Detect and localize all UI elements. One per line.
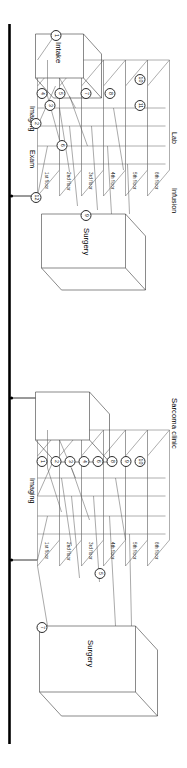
imaging-label-right: Imaging bbox=[28, 478, 35, 504]
step-marker-r2[interactable]: 2 bbox=[50, 456, 61, 467]
diagram-canvas: .s{fill:none;stroke:#6b6b6b;stroke-width… bbox=[0, 0, 187, 768]
step-marker-r8[interactable]: 8 bbox=[106, 456, 117, 467]
floor-label-5th-right: 5th floor bbox=[130, 542, 135, 560]
floor-label-1st-left: 1st floor bbox=[42, 172, 47, 189]
step-marker-6[interactable]: 6 bbox=[56, 140, 67, 151]
step-marker-4[interactable]: 4 bbox=[36, 88, 47, 99]
infusion-label: Infusion bbox=[170, 188, 177, 213]
floor-label-6th-left: 6th floor bbox=[152, 172, 157, 190]
floor-label-6th-right: 6th floor bbox=[152, 542, 157, 560]
floor-label-2nd-left: 2nd floor bbox=[64, 172, 69, 191]
step-marker-7[interactable]: 7 bbox=[80, 88, 91, 99]
intake-label: Intake bbox=[53, 42, 61, 63]
step-marker-12[interactable]: 12 bbox=[30, 192, 41, 203]
exam-label: Exam bbox=[28, 150, 35, 168]
step-marker-r5[interactable]: 5 bbox=[94, 568, 105, 579]
step-marker-9[interactable]: 9 bbox=[80, 210, 91, 221]
step-marker-1[interactable]: 1 bbox=[50, 30, 61, 41]
step-marker-r6[interactable]: 6 bbox=[92, 456, 103, 467]
floor-label-3rd-left: 3rd floor bbox=[86, 172, 91, 190]
step-marker-r3[interactable]: 3 bbox=[64, 456, 75, 467]
surgery-label-left: Surgery bbox=[81, 228, 89, 255]
step-marker-r4[interactable]: 4 bbox=[78, 456, 89, 467]
floor-label-5th-left: 5th floor bbox=[130, 172, 135, 190]
step-marker-11[interactable]: 11 bbox=[134, 100, 145, 111]
surgery-building-right bbox=[39, 626, 157, 716]
floor-label-3rd-right: 3rd floor bbox=[86, 542, 91, 560]
floor-label-2nd-right: 2nd floor bbox=[64, 542, 69, 561]
step-marker-3[interactable]: 3 bbox=[44, 100, 55, 111]
step-marker-r7[interactable]: 7 bbox=[36, 622, 47, 633]
lab-label: Lab bbox=[170, 132, 177, 144]
floor-label-4th-left: 4th floor bbox=[108, 172, 113, 190]
step-marker-r1[interactable]: 1 bbox=[36, 456, 47, 467]
step-marker-r10[interactable]: 10 bbox=[134, 456, 145, 467]
floor-label-4th-right: 4th floor bbox=[108, 542, 113, 560]
step-marker-10[interactable]: 10 bbox=[134, 74, 145, 85]
step-marker-r9[interactable]: 9 bbox=[120, 456, 131, 467]
general-clinic-floorstack bbox=[37, 60, 169, 196]
surgery-building-left bbox=[41, 214, 145, 290]
step-marker-8[interactable]: 8 bbox=[104, 88, 115, 99]
floor-label-1st-right: 1st floor bbox=[42, 542, 47, 559]
timeline-axis bbox=[9, 24, 37, 744]
step-marker-5[interactable]: 5 bbox=[54, 88, 65, 99]
surgery-label-right: Surgery bbox=[85, 640, 93, 667]
sarcoma-clinic-label: Sarcoma clinic bbox=[169, 398, 177, 449]
step-marker-2[interactable]: 2 bbox=[30, 118, 41, 129]
